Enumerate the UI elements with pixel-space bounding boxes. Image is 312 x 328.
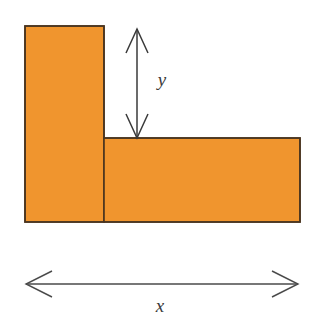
height-dimension-label: y: [156, 69, 167, 90]
horizontal-rectangle: [104, 138, 300, 222]
width-dimension-label: x: [155, 295, 165, 316]
vertical-rectangle: [25, 26, 104, 222]
geometry-diagram: y x: [0, 0, 312, 328]
height-dimension-group: y: [126, 29, 167, 138]
diagram-canvas: y x: [0, 0, 312, 328]
width-dimension-group: x: [26, 271, 298, 316]
l-shape-group: [25, 26, 300, 222]
